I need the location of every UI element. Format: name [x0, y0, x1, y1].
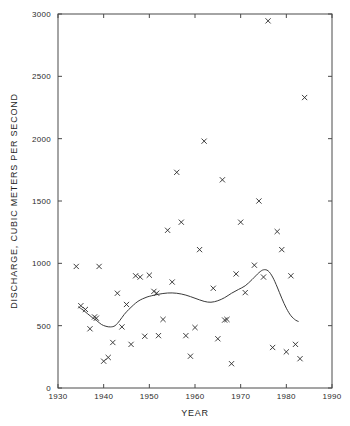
- data-point-marker: [142, 334, 147, 339]
- data-point-marker: [288, 273, 293, 278]
- data-point-marker: [279, 247, 284, 252]
- data-point-marker: [156, 333, 161, 338]
- data-point-marker: [147, 273, 152, 278]
- data-points-layer: [74, 18, 308, 366]
- x-tick-label: 1930: [49, 392, 68, 401]
- data-point-marker: [138, 274, 143, 279]
- data-point-marker: [124, 302, 129, 307]
- data-point-marker: [160, 317, 165, 322]
- data-point-marker: [238, 220, 243, 225]
- data-point-marker: [243, 290, 248, 295]
- data-point-marker: [78, 303, 83, 308]
- data-point-marker: [174, 170, 179, 175]
- data-point-marker: [197, 247, 202, 252]
- x-axis-title: YEAR: [181, 408, 209, 418]
- axis-layer: [58, 14, 332, 388]
- data-point-marker: [202, 139, 207, 144]
- y-tick-label: 500: [37, 322, 51, 331]
- data-point-marker: [293, 342, 298, 347]
- x-tick-label: 1990: [323, 392, 342, 401]
- data-point-marker: [183, 333, 188, 338]
- data-point-marker: [261, 274, 266, 279]
- y-tick-label: 3000: [32, 10, 51, 19]
- data-point-marker: [256, 198, 261, 203]
- data-point-marker: [119, 324, 124, 329]
- y-tick-label: 1000: [32, 259, 51, 268]
- chart-figure: 1930194019501960197019801990050010001500…: [0, 0, 350, 426]
- scatter-plot-svg: 1930194019501960197019801990050010001500…: [0, 0, 350, 426]
- data-point-marker: [297, 356, 302, 361]
- data-point-marker: [220, 177, 225, 182]
- data-point-marker: [179, 220, 184, 225]
- data-point-marker: [265, 18, 270, 23]
- x-tick-label: 1980: [277, 392, 296, 401]
- data-point-marker: [170, 279, 175, 284]
- plot-frame: [58, 14, 332, 388]
- x-tick-label: 1960: [186, 392, 205, 401]
- data-point-marker: [192, 325, 197, 330]
- data-point-marker: [215, 336, 220, 341]
- data-point-marker: [74, 264, 79, 269]
- axis-label-layer: 1930194019501960197019801990050010001500…: [9, 10, 342, 418]
- y-tick-label: 2500: [32, 72, 51, 81]
- data-point-marker: [115, 291, 120, 296]
- y-tick-label: 0: [46, 384, 51, 393]
- data-point-marker: [302, 95, 307, 100]
- y-tick-label: 1500: [32, 197, 51, 206]
- data-point-marker: [188, 354, 193, 359]
- x-tick-label: 1970: [231, 392, 250, 401]
- data-point-marker: [229, 361, 234, 366]
- data-point-marker: [252, 263, 257, 268]
- data-point-marker: [211, 286, 216, 291]
- x-tick-label: 1950: [140, 392, 159, 401]
- data-point-marker: [133, 273, 138, 278]
- x-tick-label: 1940: [94, 392, 113, 401]
- y-tick-label: 2000: [32, 135, 51, 144]
- data-point-marker: [234, 271, 239, 276]
- data-point-marker: [284, 349, 289, 354]
- data-point-marker: [87, 326, 92, 331]
- y-axis-title: DISCHARGE, CUBIC METERS PER SECOND: [9, 93, 19, 309]
- data-point-marker: [165, 228, 170, 233]
- data-point-marker: [97, 264, 102, 269]
- data-point-marker: [151, 289, 156, 294]
- data-point-marker: [270, 345, 275, 350]
- data-point-marker: [106, 355, 111, 360]
- data-point-marker: [101, 359, 106, 364]
- data-point-marker: [110, 340, 115, 345]
- data-point-marker: [128, 342, 133, 347]
- data-point-marker: [275, 229, 280, 234]
